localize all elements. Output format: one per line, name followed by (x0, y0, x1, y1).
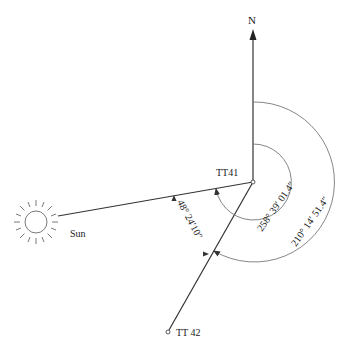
north-label: N (248, 14, 256, 26)
sun-bearing-label: 258° 39′ 01.4″ (255, 179, 297, 233)
tt41-label: TT41 (216, 167, 238, 178)
tt42-label: TT 42 (176, 327, 201, 338)
sun-label: Sun (70, 228, 86, 239)
sun-icon (14, 200, 58, 244)
tt42-point-icon (166, 330, 170, 334)
survey-diagram: N TT41 TT 42 Sun 258° 39′ 01.4″ 210° 14′… (0, 0, 348, 352)
sun-tt42-angle-label: 48° 24′10″ (175, 198, 205, 241)
tt42-bearing-arc (214, 102, 334, 262)
sun-line (58, 182, 253, 216)
tt41-point-icon (251, 180, 255, 184)
north-arrow (250, 29, 257, 182)
